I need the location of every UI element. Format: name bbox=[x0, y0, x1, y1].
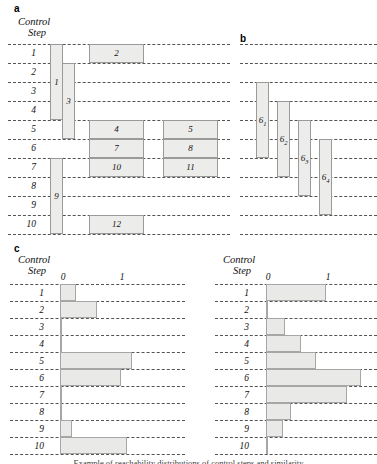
row-label-c-right-9: 9 bbox=[227, 424, 249, 434]
panel-c-letter: c bbox=[14, 244, 20, 254]
row-label-a-8: 8 bbox=[14, 181, 36, 191]
gridline bbox=[10, 318, 185, 319]
task-bar bbox=[89, 158, 144, 177]
panel-c-right-axis-title-line1: Control bbox=[223, 254, 255, 265]
panel-a-axis-title: Control Step bbox=[18, 16, 50, 38]
figure-caption: Example of reachability distributions of… bbox=[0, 458, 377, 464]
panel-c-left-axis-title-line1: Control bbox=[18, 254, 50, 265]
gridline bbox=[8, 234, 230, 235]
row-label-c-right-2: 2 bbox=[227, 305, 249, 315]
hist-bar bbox=[60, 284, 76, 301]
panel-c-left-axis-title-line2: Step bbox=[18, 265, 50, 276]
gridline bbox=[8, 196, 230, 197]
task-bar bbox=[319, 139, 332, 215]
row-label-c-left-9: 9 bbox=[22, 424, 44, 434]
x-tick-label-0: 0 bbox=[260, 272, 276, 282]
row-label-c-right-3: 3 bbox=[227, 322, 249, 332]
row-label-c-right-7: 7 bbox=[227, 390, 249, 400]
gridline bbox=[215, 454, 377, 455]
gridline bbox=[10, 301, 185, 302]
gridline bbox=[215, 403, 377, 404]
gridline bbox=[215, 301, 377, 302]
hist-bar bbox=[266, 284, 326, 301]
gridline bbox=[240, 63, 377, 64]
gridline bbox=[10, 284, 185, 285]
panel-c-right: Control Step 0 1 1 2 3 4 5 6 7 8 9 10 bbox=[190, 240, 377, 464]
task-bar bbox=[89, 44, 144, 63]
hist-bar bbox=[60, 318, 62, 335]
hist-bar bbox=[266, 437, 268, 454]
hist-bar bbox=[266, 369, 361, 386]
panel-b: b 61 62 63 64 bbox=[235, 0, 377, 240]
panel-b-letter: b bbox=[240, 34, 246, 44]
hist-bar bbox=[60, 403, 62, 420]
panel-c-right-axis-title: Control Step bbox=[223, 254, 255, 276]
task-bar bbox=[277, 101, 290, 177]
gridline bbox=[8, 101, 230, 102]
task-bar bbox=[62, 63, 75, 139]
task-bar bbox=[256, 82, 269, 158]
hist-bar bbox=[60, 301, 97, 318]
row-label-c-right-10: 10 bbox=[227, 441, 249, 451]
hist-bar bbox=[266, 420, 283, 437]
row-label-c-right-6: 6 bbox=[227, 373, 249, 383]
hist-bar bbox=[266, 386, 347, 403]
row-label-a-10: 10 bbox=[14, 219, 36, 229]
row-label-a-5: 5 bbox=[14, 124, 36, 134]
row-label-c-left-5: 5 bbox=[22, 356, 44, 366]
row-label-c-left-6: 6 bbox=[22, 373, 44, 383]
hist-bar bbox=[60, 437, 127, 454]
hist-bar bbox=[60, 420, 72, 437]
panel-c-right-axis-title-line2: Step bbox=[223, 265, 255, 276]
panel-a-letter: a bbox=[14, 4, 20, 14]
hist-bar bbox=[266, 403, 291, 420]
row-label-c-left-1: 1 bbox=[22, 288, 44, 298]
gridline bbox=[10, 335, 185, 336]
task-bar bbox=[50, 158, 63, 234]
task-bar bbox=[89, 139, 144, 158]
row-label-a-2: 2 bbox=[14, 67, 36, 77]
hist-bar bbox=[266, 352, 316, 369]
hist-bar bbox=[266, 335, 301, 352]
hist-bar bbox=[60, 386, 62, 403]
row-label-a-6: 6 bbox=[14, 143, 36, 153]
task-bar bbox=[89, 120, 144, 139]
row-label-c-left-3: 3 bbox=[22, 322, 44, 332]
panel-a: a Control Step 1 2 3 4 5 6 7 8 9 10 1 3 … bbox=[0, 0, 230, 240]
row-label-c-left-10: 10 bbox=[22, 441, 44, 451]
task-bar bbox=[163, 120, 218, 139]
gridline bbox=[215, 318, 377, 319]
task-bar bbox=[298, 120, 311, 196]
x-tick-label-1: 1 bbox=[114, 272, 130, 282]
x-tick-label-0: 0 bbox=[55, 272, 71, 282]
gridline bbox=[10, 403, 185, 404]
gridline bbox=[10, 386, 185, 387]
hist-bar bbox=[266, 301, 268, 318]
panel-a-axis-title-line1: Control bbox=[18, 16, 50, 27]
row-label-c-right-5: 5 bbox=[227, 356, 249, 366]
hist-bar bbox=[60, 369, 121, 386]
x-tick-label-1: 1 bbox=[320, 272, 336, 282]
gridline bbox=[8, 177, 230, 178]
gridline bbox=[8, 82, 230, 83]
hist-bar bbox=[60, 335, 62, 352]
row-label-c-right-4: 4 bbox=[227, 339, 249, 349]
gridline bbox=[8, 63, 230, 64]
gridline bbox=[10, 454, 185, 455]
row-label-a-9: 9 bbox=[14, 200, 36, 210]
panel-a-axis-title-line2: Step bbox=[18, 27, 50, 38]
panel-c-left-axis-title: Control Step bbox=[18, 254, 50, 276]
gridline bbox=[215, 420, 377, 421]
row-label-a-4: 4 bbox=[14, 105, 36, 115]
gridline bbox=[240, 215, 377, 216]
panel-c-left: c Control Step 0 1 1 2 3 4 5 6 7 8 9 10 bbox=[0, 240, 190, 464]
task-bar bbox=[163, 158, 218, 177]
row-label-a-7: 7 bbox=[14, 162, 36, 172]
task-bar bbox=[163, 139, 218, 158]
hist-bar bbox=[266, 318, 285, 335]
row-label-c-left-2: 2 bbox=[22, 305, 44, 315]
row-label-a-3: 3 bbox=[14, 86, 36, 96]
gridline bbox=[240, 196, 377, 197]
gridline bbox=[215, 437, 377, 438]
row-label-c-left-8: 8 bbox=[22, 407, 44, 417]
